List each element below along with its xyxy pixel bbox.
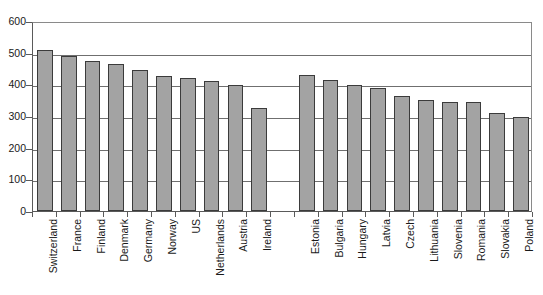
x-tick-label: Germany [143, 219, 154, 262]
bar[interactable] [228, 85, 244, 211]
y-tick-label: 600 [0, 16, 26, 27]
bar-slot [462, 23, 486, 211]
x-tick-mark [318, 212, 319, 217]
bar[interactable] [180, 78, 196, 211]
bar-slot [509, 23, 533, 211]
bar-slot [57, 23, 81, 211]
bar-slot [343, 23, 367, 211]
bar[interactable] [513, 117, 529, 211]
bar-chart: 0100200300400500600 SwitzerlandFranceFin… [0, 0, 543, 295]
x-tick-mark [246, 212, 247, 217]
x-tick-mark [484, 212, 485, 217]
bar-slot [319, 23, 343, 211]
x-tick-mark [175, 212, 176, 217]
x-tick-label: Czech [405, 219, 416, 249]
bar[interactable] [251, 108, 267, 211]
bar[interactable] [132, 70, 148, 211]
bar[interactable] [370, 88, 386, 211]
x-tick-label: Estonia [310, 219, 321, 254]
x-tick-mark [222, 212, 223, 217]
y-tick-label: 0 [0, 206, 26, 217]
bar[interactable] [37, 50, 53, 212]
x-tick-mark [437, 212, 438, 217]
x-tick-label: Slovenia [453, 219, 464, 259]
y-tick-label: 300 [0, 111, 26, 122]
y-tick-label: 400 [0, 79, 26, 90]
x-tick-mark [389, 212, 390, 217]
x-tick-label: Austria [238, 219, 249, 252]
bar-slot [152, 23, 176, 211]
bar[interactable] [442, 102, 458, 211]
plot-area [32, 22, 532, 212]
bar-slot [128, 23, 152, 211]
y-tick-label: 500 [0, 48, 26, 59]
bar[interactable] [418, 100, 434, 211]
bar-slot [271, 23, 295, 211]
x-tick-label: Ireland [262, 219, 273, 251]
x-tick-mark [80, 212, 81, 217]
x-tick-mark [342, 212, 343, 217]
x-tick-mark [199, 212, 200, 217]
x-tick-label: Switzerland [48, 219, 59, 273]
bar[interactable] [108, 64, 124, 211]
bar-slot [33, 23, 57, 211]
y-tick-label: 100 [0, 174, 26, 185]
bar-slot [247, 23, 271, 211]
bar-slot [485, 23, 509, 211]
bar[interactable] [489, 113, 505, 211]
x-tick-label: Latvia [381, 219, 392, 247]
bar[interactable] [466, 102, 482, 211]
bar-slot [104, 23, 128, 211]
x-tick-label: Finland [96, 219, 107, 253]
x-tick-label: Denmark [119, 219, 130, 262]
x-tick-mark [413, 212, 414, 217]
bar[interactable] [347, 85, 363, 211]
x-tick-label: Lithuania [429, 219, 440, 262]
bar-series [33, 23, 531, 211]
x-tick-label: Netherlands [215, 219, 226, 276]
x-tick-label: France [72, 219, 83, 252]
x-tick-mark [294, 212, 295, 217]
x-tick-mark [151, 212, 152, 217]
bar-slot [200, 23, 224, 211]
bar[interactable] [61, 56, 77, 211]
bar[interactable] [299, 75, 315, 211]
x-tick-mark [103, 212, 104, 217]
bar-slot [81, 23, 105, 211]
x-tick-label: Slovakia [500, 219, 511, 259]
bar-slot [223, 23, 247, 211]
bar-slot [438, 23, 462, 211]
bar[interactable] [394, 96, 410, 211]
x-tick-label: Hungary [357, 219, 368, 259]
bar-slot [414, 23, 438, 211]
bar[interactable] [85, 61, 101, 211]
x-tick-mark [56, 212, 57, 217]
x-tick-label: Norway [167, 219, 178, 255]
bar[interactable] [156, 76, 172, 211]
bar-slot [390, 23, 414, 211]
bar-slot [295, 23, 319, 211]
x-tick-mark [32, 212, 33, 217]
x-tick-mark [532, 212, 533, 217]
x-tick-label: Romania [476, 219, 487, 261]
x-tick-label: US [191, 219, 202, 234]
x-tick-mark [461, 212, 462, 217]
x-tick-mark [270, 212, 271, 217]
x-tick-mark [508, 212, 509, 217]
bar[interactable] [323, 80, 339, 211]
x-tick-label: Bulgaria [334, 219, 345, 258]
x-tick-label: Poland [524, 219, 535, 252]
x-tick-mark [127, 212, 128, 217]
bar[interactable] [204, 81, 220, 211]
x-tick-mark [365, 212, 366, 217]
y-tick-label: 200 [0, 143, 26, 154]
bar-slot [366, 23, 390, 211]
bar-slot [176, 23, 200, 211]
